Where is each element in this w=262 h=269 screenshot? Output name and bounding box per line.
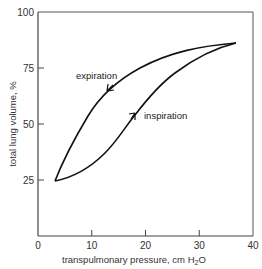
x-ticks: 0 10 20 30 40 <box>35 230 259 251</box>
inspiration-label: inspiration <box>144 110 187 121</box>
x-tick-label: 30 <box>194 240 206 251</box>
x-tick-label: 10 <box>86 240 98 251</box>
x-tick-label: 0 <box>35 240 41 251</box>
expiration-label: expiration <box>76 70 117 81</box>
x-axis-label: transpulmonary pressure, cm H2O <box>62 254 206 266</box>
y-tick-label: 100 <box>17 7 34 18</box>
y-tick-label: 50 <box>23 119 35 130</box>
y-axis-label: total lung volume, % <box>7 81 18 167</box>
hysteresis-chart: 100 75 50 25 0 10 20 30 40 transpulmonar… <box>0 0 262 269</box>
y-tick-label: 75 <box>23 63 35 74</box>
x-tick-label: 40 <box>247 240 259 251</box>
y-ticks: 100 75 50 25 <box>17 7 44 186</box>
plot-frame <box>38 12 253 236</box>
x-tick-label: 20 <box>140 240 152 251</box>
y-tick-label: 25 <box>23 175 35 186</box>
